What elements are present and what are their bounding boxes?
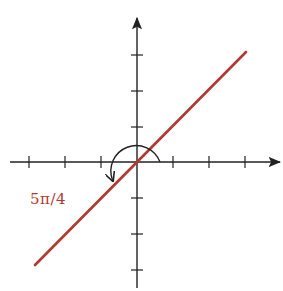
coordinate-diagram <box>0 0 283 291</box>
terminal-line <box>35 52 246 265</box>
angle-label: 5π/4 <box>30 190 66 208</box>
